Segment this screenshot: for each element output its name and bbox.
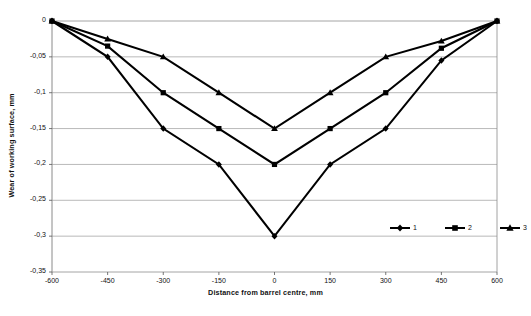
y-tick-label: 0	[12, 16, 46, 23]
data-point-marker	[383, 90, 388, 95]
legend-label-3: 3	[523, 224, 527, 231]
y-tick-label: -0,35	[12, 267, 46, 274]
data-point-marker	[328, 126, 333, 131]
x-tick-label: 600	[477, 277, 517, 284]
plot-area	[0, 0, 531, 316]
x-tick-label: 0	[255, 277, 295, 284]
data-point-marker	[216, 126, 221, 131]
x-tick-label: -300	[143, 277, 183, 284]
x-tick-label: -600	[32, 277, 72, 284]
y-tick-label: -0,1	[12, 88, 46, 95]
legend-marker-1	[389, 222, 411, 234]
data-point-marker	[272, 162, 277, 167]
x-axis-title: Distance from barrel centre, mm	[0, 288, 531, 297]
y-tick-label: -0,15	[12, 124, 46, 131]
y-tick-label: -0,05	[12, 52, 46, 59]
y-tick-label: -0,25	[12, 195, 46, 202]
x-tick-label: -450	[88, 277, 128, 284]
legend-symbol	[452, 225, 458, 231]
x-tick-label: 150	[310, 277, 350, 284]
data-point-marker	[105, 44, 110, 49]
x-tick-label: -150	[199, 277, 239, 284]
data-point-marker	[161, 90, 166, 95]
legend-label-2: 2	[468, 224, 472, 231]
wear-profile-chart: Wear of working surface, mm Distance fro…	[0, 0, 531, 316]
x-tick-label: 300	[366, 277, 406, 284]
legend-symbol	[397, 225, 403, 232]
x-tick-label: 450	[421, 277, 461, 284]
y-tick-label: -0,3	[12, 231, 46, 238]
legend-marker-2	[444, 222, 466, 234]
y-tick-label: -0,2	[12, 159, 46, 166]
legend-label-1: 1	[413, 224, 417, 231]
data-point-marker	[439, 46, 444, 51]
legend-marker-3	[499, 222, 521, 234]
